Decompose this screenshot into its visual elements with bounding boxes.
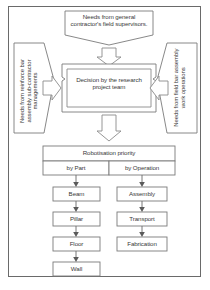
- item-label-l3: Wall: [53, 266, 100, 273]
- top-down-arrow-shape: [97, 48, 121, 66]
- connector-l-top-head: [73, 182, 79, 187]
- item-label-l1: Pillar: [53, 216, 100, 223]
- top-input-label: Needs from general contractor's field su…: [67, 14, 151, 28]
- item-label-r1: Transport: [117, 216, 167, 223]
- item-label-l0: Beam: [53, 191, 100, 198]
- item-label-l2: Floor: [53, 241, 100, 248]
- connector-l1-head: [73, 232, 79, 237]
- item-label-r2: Fabrication: [117, 241, 167, 248]
- diagram-canvas: Needs from general contractor's field su…: [9, 7, 202, 278]
- priority-column-label-0: by Part: [43, 165, 109, 172]
- left-input-label: Needs from reinforce bar assembly sub-co…: [19, 46, 39, 136]
- connector-r1-head: [139, 232, 145, 237]
- decision-label: Decision by the research project team: [71, 77, 147, 91]
- connector-l0-head: [73, 207, 79, 212]
- connector-l2-head: [73, 257, 79, 262]
- priority-column-label-1: by Operation: [109, 165, 175, 172]
- diagram-frame: Needs from general contractor's field su…: [8, 6, 201, 277]
- connector-r-top-head: [139, 182, 145, 187]
- decision-down-arrow-shape: [97, 115, 121, 141]
- right-input-label: Needs from field bar assembly work opera…: [173, 43, 186, 133]
- priority-header-label: Robotisation priority: [43, 150, 175, 157]
- item-label-r0: Assembly: [117, 191, 167, 198]
- connector-r0-head: [139, 207, 145, 212]
